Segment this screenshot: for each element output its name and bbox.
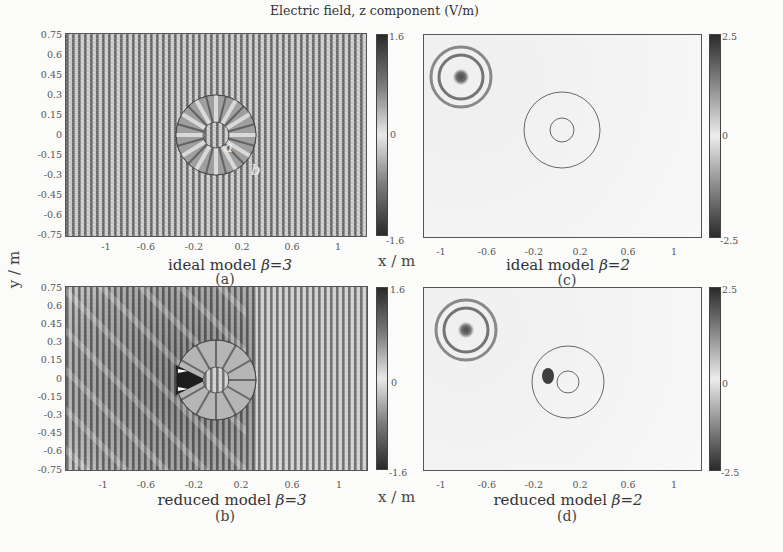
y-tick: 0.3: [22, 337, 62, 347]
sublabel-d: (d): [547, 509, 587, 523]
colorbar-min: -2.5: [721, 468, 739, 478]
colorbar-max: 1.6: [390, 285, 405, 295]
caption-d: reduced model β=2: [478, 493, 658, 508]
y-tick: 0.75: [22, 283, 62, 293]
y-tick: 0.6: [22, 301, 62, 311]
x-tick: -1: [421, 247, 461, 257]
colorbar-mid: 0: [390, 130, 396, 140]
caption-text: ideal model: [506, 256, 594, 274]
y-tick: 0.75: [22, 30, 62, 40]
y-tick: -0.6: [22, 210, 62, 220]
colorbar-mid: 0: [722, 379, 728, 389]
x-axis-label-top: x / m: [378, 254, 415, 269]
x-tick: -0.2: [174, 480, 214, 490]
y-tick: 0.6: [22, 50, 62, 60]
heatmap-d: [423, 287, 702, 471]
x-tick: -0.6: [467, 247, 507, 257]
heatmap-a: a b: [65, 33, 367, 237]
colorbar-mid: 0: [722, 131, 728, 141]
y-tick: -0.3: [22, 410, 62, 420]
y-tick: 0.45: [22, 70, 62, 80]
caption-text: reduced model: [157, 491, 271, 509]
colorbar-min: -1.6: [386, 236, 404, 246]
x-tick: 0.2: [222, 242, 262, 252]
sublabel-a: (a): [205, 272, 245, 286]
y-tick: 0.3: [22, 90, 62, 100]
caption-c: ideal model β=2: [488, 258, 648, 273]
colorbar-min: -1.6: [389, 468, 407, 478]
x-tick: 1: [654, 247, 694, 257]
x-tick: 0.6: [608, 480, 648, 490]
figure-title: Electric field, z component (V/m): [270, 3, 479, 18]
y-tick: 0.45: [22, 319, 62, 329]
y-tick: -0.3: [22, 170, 62, 180]
y-tick: -0.45: [22, 190, 62, 200]
colorbar-c: [709, 34, 721, 238]
colorbar-a: [376, 34, 388, 236]
y-tick: -0.15: [22, 150, 62, 160]
region-label-a: a: [224, 138, 233, 156]
colorbar-max: 1.6: [389, 32, 404, 42]
x-tick: -0.2: [514, 480, 554, 490]
x-tick: -1: [86, 242, 126, 252]
region-label-b: b: [251, 161, 261, 179]
x-tick: 0.6: [272, 480, 312, 490]
x-tick: -0.2: [174, 242, 214, 252]
beta-label: β=3: [276, 491, 307, 509]
colorbar-max: 2.5: [722, 285, 737, 295]
beta-label: β=2: [612, 491, 643, 509]
beta-label: β=3: [261, 256, 292, 274]
x-tick: 1: [319, 480, 359, 490]
x-tick: 0.6: [272, 242, 312, 252]
colorbar-mid: 0: [391, 378, 397, 388]
heatmap-c: [423, 34, 702, 238]
colorbar-min: -2.5: [720, 236, 738, 246]
beta-label: β=2: [599, 256, 630, 274]
x-tick: 0.2: [221, 480, 261, 490]
colorbar-d: [709, 287, 721, 471]
x-tick: 0.2: [560, 480, 600, 490]
y-tick: 0.15: [22, 110, 62, 120]
caption-text: reduced model: [493, 491, 607, 509]
colorbar-b: [376, 287, 388, 470]
y-tick: -0.45: [22, 428, 62, 438]
x-tick: 1: [318, 242, 358, 252]
y-tick: -0.15: [22, 392, 62, 402]
x-tick: -0.6: [126, 242, 166, 252]
x-tick: -1: [83, 480, 123, 490]
heatmap-b: [65, 286, 368, 471]
y-axis-label: y / m: [7, 251, 22, 288]
y-tick: -0.75: [22, 230, 62, 240]
y-tick: -0.75: [22, 465, 62, 475]
x-tick: -1: [421, 480, 461, 490]
y-tick: -0.6: [22, 446, 62, 456]
sublabel-b: (b): [205, 509, 245, 523]
caption-b: reduced model β=3: [142, 493, 322, 508]
x-tick: -0.6: [467, 480, 507, 490]
sublabel-c: (c): [547, 273, 587, 287]
x-axis-label-bottom: x / m: [378, 490, 415, 505]
colorbar-max: 2.5: [722, 32, 737, 42]
y-tick: 0: [22, 130, 62, 140]
x-tick: -0.6: [126, 480, 166, 490]
x-tick: 1: [654, 480, 694, 490]
y-tick: 0.15: [22, 355, 62, 365]
y-tick: 0: [22, 374, 62, 384]
